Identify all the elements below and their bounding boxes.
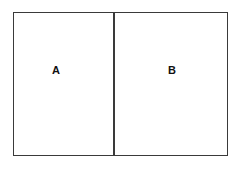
vertical-divider [113, 12, 115, 156]
outer-rectangle [13, 12, 228, 156]
region-a-label: A [52, 65, 60, 76]
region-b-label: B [168, 65, 176, 76]
